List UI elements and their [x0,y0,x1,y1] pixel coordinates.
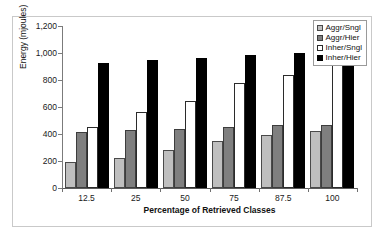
x-tick-label: 25 [131,194,140,203]
y-axis-line [62,26,63,188]
legend-swatch-icon [317,55,323,61]
x-tick-mark [308,188,309,192]
y-tick-label: 600 [43,103,57,112]
x-tick-mark [259,188,260,192]
y-tick-mark [58,161,62,162]
bar [261,135,272,188]
legend-label: Inher/Hier [326,54,361,62]
bar [114,158,125,188]
x-tick-label: 87.5 [275,194,292,203]
legend-item[interactable]: Aggr/Hier [317,33,362,43]
x-tick-label: 100 [325,194,339,203]
x-axis-title: Percentage of Retrieved Classes [62,206,357,215]
bar [343,49,354,188]
bar [196,58,207,188]
bar-group [163,26,207,188]
y-axis-title: Energy (mjoules) [19,5,28,69]
x-tick-mark [62,188,63,192]
bar [234,83,245,188]
bar [65,162,76,188]
bar [147,60,158,188]
x-tick-label: 12.5 [78,194,95,203]
legend-item[interactable]: Inher/Hier [317,53,362,63]
bar [185,101,196,188]
y-tick-label: 800 [43,76,57,85]
bar-group [261,26,305,188]
legend-swatch-icon [317,35,323,41]
legend-swatch-icon [317,25,323,31]
x-tick-mark [210,188,211,192]
bar [76,132,87,188]
bar [98,63,109,188]
legend-item[interactable]: Inher/Sngl [317,43,362,53]
y-tick-mark [58,134,62,135]
bar [272,125,283,188]
y-tick-label: 0 [52,184,57,193]
y-tick-label: 1,200 [36,22,57,31]
bar [332,63,343,188]
bar-group [65,26,109,188]
bar [212,141,223,188]
x-tick-label: 75 [229,194,238,203]
bar [125,130,136,188]
y-tick-mark [58,80,62,81]
bar [310,131,321,188]
bar [136,112,147,188]
chart-container: Energy (mjoules) 02004006008001,0001,200… [12,16,372,227]
x-tick-mark [357,188,358,192]
bar [87,127,98,188]
y-tick-label: 200 [43,157,57,166]
bar [223,127,234,188]
bar [245,55,256,188]
y-tick-label: 400 [43,130,57,139]
y-tick-mark [58,53,62,54]
legend-label: Aggr/Sngl [326,24,361,32]
x-tick-mark [160,188,161,192]
y-tick-mark [58,26,62,27]
x-tick-label: 50 [180,194,189,203]
bar [321,125,332,188]
bar-group [212,26,256,188]
y-tick-label: 1,000 [36,49,57,58]
legend-label: Inher/Sngl [326,44,362,52]
chart-legend: Aggr/SnglAggr/HierInher/SnglInher/Hier [313,20,367,66]
bar-group [114,26,158,188]
legend-item[interactable]: Aggr/Sngl [317,23,362,33]
bar [174,129,185,188]
legend-label: Aggr/Hier [326,34,360,42]
y-tick-mark [58,107,62,108]
bar [283,75,294,188]
legend-swatch-icon [317,45,323,51]
bar [163,150,174,188]
bar [294,53,305,188]
x-tick-mark [111,188,112,192]
